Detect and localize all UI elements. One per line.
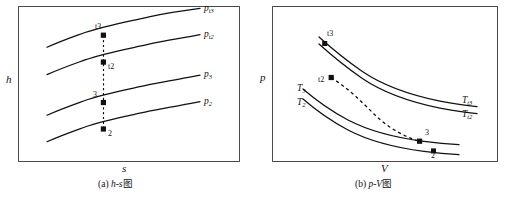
panel-hs-chart: h s pt3 pt2 p3 p2 t3 t2 3 2 (18, 6, 240, 162)
point-label-3: 3 (93, 91, 97, 99)
curve-isobar-p3 (47, 75, 200, 115)
marker-point-2 (101, 126, 106, 131)
marker-point-t2 (329, 75, 334, 80)
curve-label-Tt2: Tt2 (462, 110, 472, 120)
curve-label-pt2: pt2 (204, 30, 214, 40)
marker-point-t2 (101, 60, 106, 65)
curve-label-Tt3: Tt3 (462, 96, 472, 106)
axis-label-h: h (6, 74, 12, 85)
curve-isobar-pt2 (47, 35, 200, 75)
point-label-3: 3 (425, 129, 429, 137)
point-label-2: 2 (431, 152, 435, 160)
caption-b-suffix: 图 (382, 179, 392, 189)
curve-label-p2: p2 (204, 97, 212, 107)
caption-panel-a: (a) h-s图 (98, 180, 133, 190)
point-label-t3: t3 (95, 23, 101, 31)
curve-isobar-p2 (47, 102, 200, 142)
curve-label-p3: p3 (204, 70, 212, 80)
curve-label-pt3: pt3 (204, 4, 214, 14)
plot-svg-pv (272, 6, 498, 162)
marker-point-3 (101, 100, 106, 105)
panel-pv-chart: p V T3 T2 Tt3 Tt2 t3 t2 3 2 (272, 6, 498, 162)
point-label-t3: t3 (327, 30, 333, 38)
figure-container: h s pt3 pt2 p3 p2 t3 t2 3 2 (0, 0, 515, 203)
axis-label-s: s (122, 163, 126, 174)
caption-a-prefix: (a) (98, 179, 109, 189)
caption-b-axes: p-V (368, 179, 382, 189)
caption-a-axes: h-s (111, 179, 123, 189)
axis-label-p: p (260, 72, 266, 83)
caption-a-suffix: 图 (123, 179, 133, 189)
point-label-2: 2 (108, 130, 112, 138)
curve-label-T2: T2 (297, 98, 306, 108)
marker-point-t3 (322, 41, 327, 46)
caption-panel-b: (b) p-V图 (355, 180, 392, 190)
point-label-t2: t2 (318, 76, 324, 84)
curve-isobar-pt3 (47, 8, 200, 47)
marker-point-3 (417, 139, 422, 144)
curve-label-T3: T3 (297, 84, 306, 94)
point-label-t2: t2 (108, 63, 114, 71)
axis-label-V: V (381, 163, 388, 174)
marker-point-t3 (101, 33, 106, 38)
caption-b-prefix: (b) (355, 179, 366, 189)
